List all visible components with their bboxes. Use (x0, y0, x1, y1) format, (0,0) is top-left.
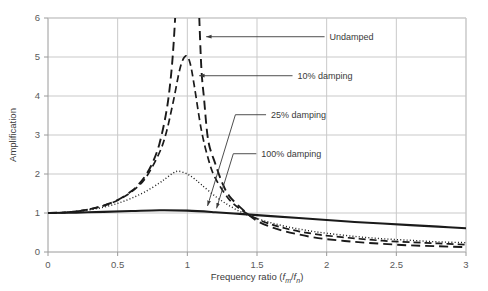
x-tick-label: 0 (45, 259, 50, 270)
annotation-label: 100% damping (261, 149, 321, 159)
x-tick-label: 0.5 (111, 259, 124, 270)
y-tick-label: 5 (35, 51, 40, 62)
y-axis-title-text: Amplification (7, 108, 18, 162)
y-tick-label: 2 (35, 168, 40, 179)
x-tick-label: 3 (463, 259, 468, 270)
y-tick-label: 1 (35, 207, 40, 218)
y-tick-label: 0 (35, 246, 40, 257)
annotation-label: 10% damping (297, 71, 352, 81)
x-axis-title-prefix: Frequency ratio ( (211, 271, 284, 282)
y-tick-label: 6 (35, 12, 40, 23)
annotation-label: 25% damping (271, 110, 326, 120)
x-tick-label: 1.5 (250, 259, 263, 270)
amplification-vs-frequency-ratio-chart: 00.511.522.53 0123456 Undamped10% dampin… (0, 0, 488, 291)
x-tick-label: 2.5 (390, 259, 403, 270)
annotation-label: Undamped (329, 32, 373, 42)
x-tick-label: 2 (324, 259, 329, 270)
figure-background (0, 0, 488, 291)
y-tick-label: 3 (35, 129, 40, 140)
x-axis-title-suffix: ) (300, 271, 303, 282)
y-axis-title: Amplification (7, 108, 18, 162)
x-tick-label: 1 (185, 259, 190, 270)
y-tick-label: 4 (35, 90, 40, 101)
